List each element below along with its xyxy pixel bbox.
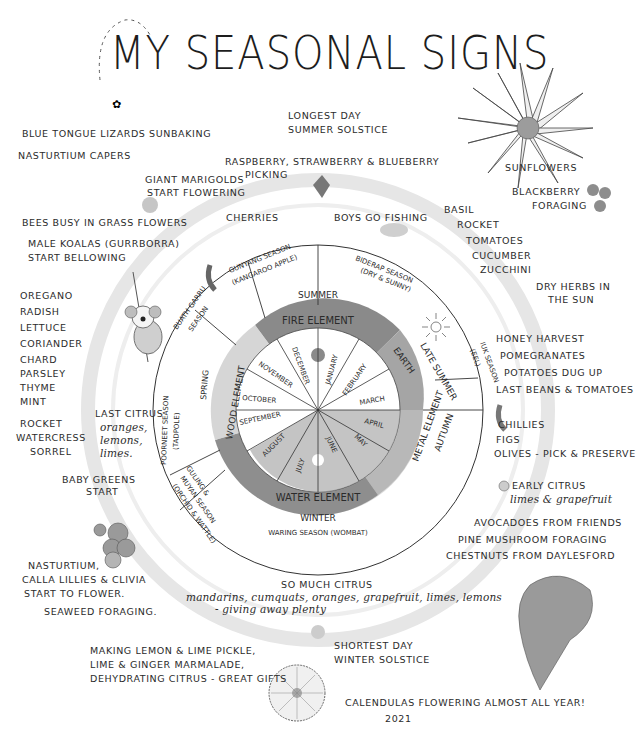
- blackberry-icon: [587, 184, 611, 212]
- note-longest-day: LONGEST DAY: [288, 110, 361, 123]
- note-seaweed: SEAWEED FORAGING.: [44, 606, 157, 619]
- note-blackberry: BLACKBERRY: [512, 186, 580, 199]
- note-marigolds-flowering: START FLOWERING: [147, 187, 246, 200]
- note-chillies: CHILLIES: [498, 419, 545, 432]
- note-bees: BEES BUSY IN GRASS FLOWERS: [22, 217, 188, 230]
- fish-icon: [380, 223, 408, 237]
- note-potatoes: POTATOES DUG UP: [504, 367, 603, 380]
- note-winter-solstice: WINTER SOLSTICE: [334, 654, 430, 667]
- note-giving-away: - giving away plenty: [215, 602, 326, 616]
- note-dehydrating: DEHYDRATING CITRUS - great gifts: [90, 673, 287, 686]
- note-sunflowers: SUNFLOWERS: [505, 162, 577, 175]
- note-summer-solstice: SUMMER SOLSTICE: [288, 124, 388, 137]
- oak-leaf-illustration: [519, 576, 593, 690]
- note-figs: FIGS: [496, 434, 520, 447]
- veg-tomatoes: TOMATOES: [466, 235, 523, 248]
- note-koalas-bellowing: START BELLOWING: [28, 252, 126, 265]
- note-berries: RASPBERRY, STRAWBERRY & BLUEBERRY: [225, 156, 439, 169]
- note-fishing: BOYS GO FISHING: [334, 212, 428, 225]
- note-cherries: CHERRIES: [226, 212, 279, 225]
- herb-oregano: OREGANO: [20, 290, 73, 303]
- note-nasturtium: NASTURTIUM,: [28, 560, 100, 573]
- bee-trail: [99, 20, 150, 80]
- note-calla-lillies: CALLA LILLIES & CLIVIA: [22, 574, 146, 587]
- element-fire: FIRE ELEMENT: [282, 315, 355, 326]
- herb-rocket: ROCKET: [20, 418, 62, 431]
- veg-cucumber: CUCUMBER: [472, 250, 531, 263]
- note-lizards: BLUE TONGUE LIZARDS SUNBAKING: [22, 128, 211, 141]
- early-citrus-icon: [499, 481, 509, 491]
- note-dry-herbs: DRY HERBS IN: [536, 281, 610, 294]
- note-avocados: AVOCADOES FROM FRIENDS: [474, 517, 622, 530]
- herb-radish: RADISH: [20, 306, 60, 319]
- herb-sorrel: SORREL: [30, 446, 72, 459]
- veg-zucchini: ZUCCHINI: [480, 264, 531, 277]
- note-pomegranates: POMEGRANATES: [500, 350, 585, 363]
- note-shortest-day: SHORTEST DAY: [334, 640, 413, 653]
- note-early-citrus: EARLY CITRUS: [512, 480, 586, 493]
- veg-basil: BASIL: [444, 204, 474, 217]
- note-marmalade: LIME & GINGER MARMALADE,: [90, 659, 245, 672]
- herb-chard: CHARD: [20, 354, 57, 367]
- note-chestnuts: CHESTNUTS FROM DAYLESFORD: [446, 550, 615, 563]
- season-winter: WINTER: [300, 513, 336, 523]
- note-berries-picking: PICKING: [245, 169, 288, 182]
- element-water: WATER ELEMENT: [276, 492, 362, 503]
- note-blackberry-foraging: FORAGING: [532, 200, 587, 213]
- herb-parsley: PARSLEY: [20, 368, 66, 381]
- note-last-beans: LAST BEANS & TOMATOES: [496, 384, 634, 397]
- note-baby-greens: BABY GREENS: [62, 474, 136, 487]
- signature-year: 2021: [385, 713, 412, 726]
- herb-thyme: THYME: [20, 382, 56, 395]
- note-early-citrus-sub: limes & grapefruit: [510, 492, 612, 506]
- note-baby-greens-start: START: [86, 486, 118, 499]
- note-honey-harvest: HONEY HARVEST: [496, 333, 584, 346]
- bee-icon: ✿: [112, 98, 121, 111]
- herb-coriander: CORIANDER: [20, 338, 82, 351]
- herb-mint: MINT: [20, 396, 46, 409]
- note-last-citrus-limes: limes.: [100, 446, 133, 460]
- note-the-sun: THE SUN: [548, 294, 594, 307]
- note-pine-mushroom: PINE MUSHROOM FORAGING: [458, 534, 607, 547]
- note-marigolds: GIANT MARIGOLDS: [145, 174, 244, 187]
- herb-lettuce: LETTUCE: [20, 322, 67, 335]
- herb-watercress: WATERCRESS: [16, 432, 86, 445]
- note-olives: OLIVES - pick & preserve: [494, 448, 636, 461]
- veg-rocket: ROCKET: [457, 219, 499, 232]
- note-capers: NASTURTIUM CAPERS: [18, 150, 131, 163]
- note-calendulas: CALENDULAS FLOWERING ALMOST ALL YEAR!: [345, 697, 585, 710]
- note-pickle: MAKING LEMON & LIME PICKLE,: [90, 645, 256, 658]
- citrus-icon: [311, 625, 325, 639]
- season-summer: SUMMER: [298, 290, 338, 300]
- season-waring: WARING SEASON (WOMBAT): [268, 529, 368, 537]
- note-koalas: MALE KOALAS (GURRBORRA): [28, 238, 179, 251]
- note-last-citrus: LAST CITRUS: [95, 408, 163, 421]
- note-start-flower: START TO FLOWER.: [24, 588, 125, 601]
- season-poorneet-sub: (TADPOLE): [172, 412, 181, 450]
